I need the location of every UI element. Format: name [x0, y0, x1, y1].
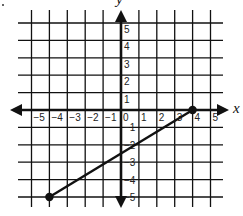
y-axis-label: y — [114, 0, 123, 7]
x-tick-label: −4 — [51, 112, 63, 123]
stray-mark — [2, 4, 4, 6]
y-tick-label: −3 — [124, 157, 136, 168]
x-axis-left-arrow-icon — [10, 104, 22, 116]
x-axis-label: x — [232, 100, 240, 116]
x-tick-label: −1 — [105, 112, 117, 123]
x-axis-right-arrow-icon — [217, 104, 229, 116]
x-tick-label: −5 — [34, 112, 46, 123]
x-tick-label: −3 — [69, 112, 81, 123]
endpoint-dot — [45, 193, 53, 201]
x-tick-label: 4 — [195, 112, 201, 123]
y-tick-label: −4 — [124, 175, 136, 186]
x-tick-label: 0 — [123, 112, 129, 123]
y-tick-label: 5 — [124, 24, 130, 35]
y-tick-label: 2 — [124, 76, 130, 87]
y-tick-label: −1 — [124, 122, 136, 133]
x-tick-label: 5 — [213, 112, 219, 123]
y-tick-label: 1 — [124, 94, 130, 105]
y-tick-label: 4 — [124, 41, 130, 52]
endpoint-dot — [188, 106, 196, 114]
y-tick-label: 3 — [124, 59, 130, 70]
x-tick-label: 2 — [159, 112, 165, 123]
y-tick-label: −5 — [124, 192, 136, 203]
x-tick-label: −2 — [87, 112, 99, 123]
y-axis-up-arrow-icon — [115, 10, 127, 22]
x-tick-label: 1 — [141, 112, 147, 123]
coordinate-plane: −5−4−3−2−1012345−5−4−3−2−112345 x y — [0, 0, 243, 216]
